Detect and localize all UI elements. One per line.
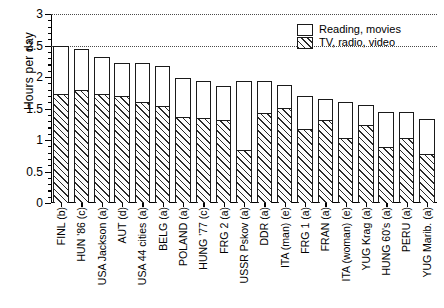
y-tick-label: 1.5 bbox=[26, 103, 43, 115]
bar-segment-tv-radio-video bbox=[176, 117, 189, 203]
x-label-cell: HUNG 60's (a) bbox=[376, 205, 396, 305]
bar-segment-tv-radio-video bbox=[95, 94, 108, 203]
stacked-bar bbox=[175, 78, 190, 203]
stacked-bar bbox=[257, 81, 272, 203]
y-tick-label: 0.5 bbox=[26, 166, 43, 178]
bar-group bbox=[417, 14, 437, 203]
x-tick-label: HUNG 60's (a) bbox=[381, 207, 392, 276]
hatched-square-icon bbox=[297, 37, 313, 49]
x-label-cell: HUNG '77 (c) bbox=[193, 205, 213, 305]
bar-group bbox=[153, 14, 173, 203]
x-label-cell: FRG 2 (a) bbox=[214, 205, 234, 305]
stacked-bar bbox=[378, 112, 393, 203]
x-label-cell: BELG (a) bbox=[153, 205, 173, 305]
x-label-cell: FINL (b) bbox=[51, 205, 71, 305]
x-tick-label: HUNG '77 (c) bbox=[198, 207, 209, 270]
x-tick-label: PERU (a) bbox=[401, 207, 412, 252]
x-tick-label: FRAN (a) bbox=[320, 207, 331, 251]
stacked-bar bbox=[196, 81, 211, 203]
y-tick-label: 2 bbox=[36, 71, 43, 83]
x-tick-label: USA 44 cities (a) bbox=[137, 207, 148, 285]
y-tick-label: 3 bbox=[36, 8, 43, 20]
stacked-bar bbox=[155, 66, 170, 203]
x-tick-label: POLAND (a) bbox=[178, 207, 189, 266]
bar-segment-tv-radio-video bbox=[339, 138, 352, 203]
x-tick-label: HUN '86 (c) bbox=[76, 207, 87, 262]
stacked-bar bbox=[74, 49, 89, 203]
bar-segment-tv-radio-video bbox=[237, 150, 250, 203]
x-tick-label: FRG 1 (a) bbox=[300, 207, 311, 254]
bar-group bbox=[214, 14, 234, 203]
x-tick-label: BELG (a) bbox=[157, 207, 168, 251]
bar-group bbox=[51, 14, 71, 203]
x-label-cell: DDR (a) bbox=[254, 205, 274, 305]
stacked-bar bbox=[358, 105, 373, 203]
bar-group bbox=[173, 14, 193, 203]
x-tick-label: YUG Marib. (a) bbox=[422, 207, 433, 278]
chart-legend: Reading, moviesTV, radio, video bbox=[297, 23, 401, 49]
x-tick-label: USSR Pskov (a) bbox=[239, 207, 250, 283]
legend-item: TV, radio, video bbox=[297, 36, 401, 49]
bar-segment-tv-radio-video bbox=[420, 154, 433, 203]
x-label-cell: HUN '86 (c) bbox=[71, 205, 91, 305]
white-square-icon bbox=[297, 24, 313, 36]
bar-segment-tv-radio-video bbox=[258, 113, 271, 203]
x-axis-labels: FINL (b)HUN '86 (c)USA Jackson (a)AUT (d… bbox=[51, 205, 437, 305]
bar-group bbox=[234, 14, 254, 203]
stacked-bar bbox=[297, 96, 312, 203]
y-tick-label: 1 bbox=[36, 134, 43, 146]
stacked-bar bbox=[135, 63, 150, 203]
x-tick-label: AUT (d) bbox=[117, 207, 128, 244]
x-label-cell: YUG Krag (a) bbox=[356, 205, 376, 305]
x-label-cell: ITA (man) (e) bbox=[274, 205, 294, 305]
x-label-cell: USA Jackson (a) bbox=[92, 205, 112, 305]
stacked-bar bbox=[318, 99, 333, 203]
legend-item: Reading, movies bbox=[297, 23, 401, 36]
bar-segment-tv-radio-video bbox=[298, 129, 311, 203]
x-label-cell: USSR Pskov (a) bbox=[234, 205, 254, 305]
bar-segment-tv-radio-video bbox=[54, 94, 67, 203]
x-label-cell: PERU (a) bbox=[396, 205, 416, 305]
x-label-cell: FRAN (a) bbox=[315, 205, 335, 305]
bar-group bbox=[92, 14, 112, 203]
bar-segment-tv-radio-video bbox=[115, 96, 128, 203]
bar-group bbox=[132, 14, 152, 203]
stacked-bar bbox=[53, 46, 68, 204]
x-label-cell: FRG 1 (a) bbox=[295, 205, 315, 305]
legend-label: Reading, movies bbox=[319, 24, 401, 35]
x-tick-label: YUG Krag (a) bbox=[361, 207, 372, 271]
bar-segment-tv-radio-video bbox=[197, 118, 210, 203]
bar-chart: Hours per day 00.511.522.53 FINL (b)HUN … bbox=[0, 0, 444, 308]
stacked-bar bbox=[399, 112, 414, 203]
bar-segment-tv-radio-video bbox=[319, 120, 332, 203]
bar-group bbox=[71, 14, 91, 203]
bar-group bbox=[112, 14, 132, 203]
y-tick-label: 2.5 bbox=[26, 40, 43, 52]
stacked-bar bbox=[94, 57, 109, 203]
x-tick-label: USA Jackson (a) bbox=[97, 207, 108, 285]
x-tick-label: FINL (b) bbox=[56, 207, 67, 245]
x-label-cell: YUG Marib. (a) bbox=[417, 205, 437, 305]
bar-segment-tv-radio-video bbox=[217, 120, 230, 203]
bar-segment-tv-radio-video bbox=[75, 90, 88, 203]
bar-segment-tv-radio-video bbox=[278, 108, 291, 204]
stacked-bar bbox=[216, 86, 231, 203]
stacked-bar bbox=[277, 85, 292, 203]
y-tick-label: 0 bbox=[36, 197, 43, 209]
x-tick-label: ITA (man) (e) bbox=[279, 207, 290, 268]
x-label-cell: POLAND (a) bbox=[173, 205, 193, 305]
bar-segment-tv-radio-video bbox=[136, 102, 149, 203]
bar-segment-tv-radio-video bbox=[156, 106, 169, 203]
x-label-cell: AUT (d) bbox=[112, 205, 132, 305]
bar-group bbox=[274, 14, 294, 203]
x-label-cell: USA 44 cities (a) bbox=[132, 205, 152, 305]
bar-segment-tv-radio-video bbox=[379, 147, 392, 203]
bar-group bbox=[193, 14, 213, 203]
x-tick-label: FRG 2 (a) bbox=[218, 207, 229, 254]
bar-group bbox=[254, 14, 274, 203]
y-axis-title: Hours per day bbox=[22, 0, 36, 146]
x-tick-label: DDR (a) bbox=[259, 207, 270, 246]
bar-segment-tv-radio-video bbox=[359, 125, 372, 203]
stacked-bar bbox=[114, 63, 129, 203]
x-label-cell: ITA (woman) (e) bbox=[335, 205, 355, 305]
